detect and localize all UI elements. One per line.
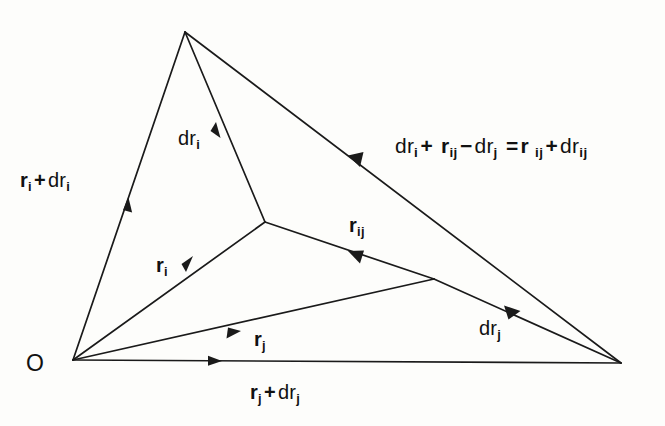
arrowhead-ri	[182, 256, 194, 272]
drj-term: dr	[479, 317, 497, 339]
arrowhead-bottom-side	[208, 356, 222, 366]
origin-label: O	[26, 352, 44, 375]
left-side-term2: dr	[48, 169, 66, 191]
rj-term: r	[254, 328, 262, 350]
label-left-side: ri+dri	[20, 170, 70, 190]
label-ri: ri	[156, 255, 168, 275]
arrowhead-rij	[348, 251, 364, 264]
eq-sub3: j	[494, 145, 498, 160]
rij-sub: ij	[357, 224, 365, 239]
eq-term3: dr	[475, 134, 494, 157]
arrowhead-rj	[227, 328, 242, 339]
left-side-term1: r	[20, 169, 28, 191]
bottom-op: +	[262, 381, 278, 403]
edge-apex-to-right	[185, 32, 621, 363]
drj-sub: j	[497, 327, 501, 342]
label-dri: dri	[178, 128, 200, 148]
label-bottom-side: rj+drj	[250, 382, 300, 402]
bottom-sub2: j	[296, 391, 300, 406]
bottom-term1: r	[250, 381, 258, 403]
arrowhead-dri	[211, 122, 221, 138]
label-main-equation: dri+ rij−drj =r ij+drij	[395, 135, 588, 156]
left-side-sub2: i	[66, 179, 70, 194]
rj-sub: j	[262, 338, 266, 353]
label-rij: rij	[349, 215, 365, 235]
eq-sub4: ij	[535, 145, 543, 160]
eq-sub5: ij	[579, 145, 587, 160]
label-rj: rj	[254, 329, 266, 349]
eq-term4: r	[521, 134, 529, 157]
edge-origin-to-right	[73, 356, 621, 366]
edge-origin-to-apex	[73, 32, 185, 360]
eq-op1: +	[418, 134, 435, 157]
edge-midi-to-apex	[185, 32, 265, 222]
ri-term: r	[156, 254, 164, 276]
eq-sub1: i	[414, 145, 418, 160]
ri-sub: i	[164, 264, 168, 279]
eq-term5: dr	[560, 134, 579, 157]
bottom-sub1: j	[258, 391, 262, 406]
left-side-op: +	[32, 169, 48, 191]
eq-term1: dr	[395, 134, 414, 157]
bottom-term2: dr	[278, 381, 296, 403]
dri-sub: i	[196, 137, 200, 152]
eq-op2: −	[458, 134, 475, 157]
label-drj: drj	[479, 318, 501, 338]
vector-diagram-canvas	[0, 0, 665, 426]
vector-diagram-figure: O ri+dri rj+drj dri ri rj rij drj dri+ r…	[0, 0, 665, 426]
rij-term: r	[349, 214, 357, 236]
eq-sub2: ij	[449, 145, 457, 160]
left-side-sub1: i	[28, 179, 32, 194]
dri-term: dr	[178, 127, 196, 149]
eq-equals: =	[504, 134, 521, 157]
arrowhead-left-side	[123, 197, 132, 213]
eq-op3: +	[543, 134, 560, 157]
